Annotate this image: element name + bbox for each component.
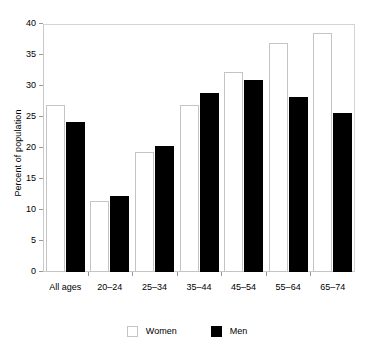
y-axis-title: Percent of population <box>13 83 23 223</box>
bar-men <box>200 93 219 272</box>
x-label-25-34: 25–34 <box>132 281 177 293</box>
legend-item-men: Men <box>211 326 248 337</box>
bar-women <box>224 72 243 272</box>
bar-men <box>110 196 129 272</box>
bar-women <box>90 201 109 272</box>
x-tick-mark <box>310 272 311 276</box>
bar-men <box>66 122 85 272</box>
bar-men <box>333 113 352 272</box>
y-tick-label: 15 <box>26 172 36 184</box>
x-label-55-64: 55–64 <box>266 281 311 293</box>
bar-chart: Percent of population 0510152025303540 A… <box>0 0 374 349</box>
x-tick-mark <box>88 272 89 276</box>
bar-women <box>46 105 65 272</box>
bar-group <box>46 24 85 272</box>
x-tick-mark <box>221 272 222 276</box>
legend-label: Women <box>146 326 177 337</box>
bar-men <box>244 80 263 272</box>
x-label-65-74: 65–74 <box>310 281 355 293</box>
bar-group <box>269 24 308 272</box>
y-tick-label: 10 <box>26 203 36 215</box>
y-tick-label: 20 <box>26 141 36 153</box>
x-label-20-24: 20–24 <box>88 281 133 293</box>
y-tick-label: 35 <box>26 48 36 60</box>
bar-group <box>313 24 352 272</box>
bar-group <box>180 24 219 272</box>
y-tick-label: 5 <box>31 234 36 246</box>
legend-item-women: Women <box>127 326 177 337</box>
x-label-all-ages: All ages <box>43 281 88 293</box>
legend-swatch-women <box>127 326 138 337</box>
x-label-45-54: 45–54 <box>221 281 266 293</box>
bar-women <box>269 43 288 272</box>
bars-layer <box>43 24 355 272</box>
chart-legend: WomenMen <box>0 326 374 337</box>
bar-group <box>135 24 174 272</box>
x-label-35-44: 35–44 <box>177 281 222 293</box>
x-tick-mark <box>266 272 267 276</box>
bar-women <box>313 33 332 272</box>
legend-swatch-men <box>211 326 222 337</box>
bar-group <box>224 24 263 272</box>
bar-women <box>135 152 154 272</box>
y-tick-label: 30 <box>26 79 36 91</box>
x-tick-mark <box>132 272 133 276</box>
bar-men <box>155 146 174 272</box>
y-tick-label: 40 <box>26 17 36 29</box>
y-tick-label: 0 <box>31 265 36 277</box>
bar-group <box>90 24 129 272</box>
x-tick-mark <box>177 272 178 276</box>
bar-women <box>180 105 199 272</box>
y-tick-label: 25 <box>26 110 36 122</box>
bar-men <box>289 97 308 272</box>
legend-label: Men <box>230 326 248 337</box>
